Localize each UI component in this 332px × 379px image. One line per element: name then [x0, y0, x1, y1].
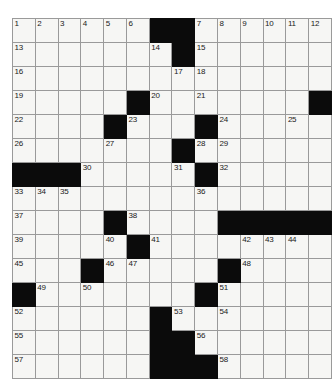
- letter-cell[interactable]: [172, 91, 195, 115]
- letter-cell[interactable]: 57: [13, 355, 36, 379]
- letter-cell[interactable]: [172, 211, 195, 235]
- letter-cell[interactable]: [286, 355, 309, 379]
- letter-cell[interactable]: [81, 307, 104, 331]
- letter-cell[interactable]: [218, 67, 241, 91]
- letter-cell[interactable]: 54: [218, 307, 241, 331]
- letter-cell[interactable]: [240, 307, 263, 331]
- letter-cell[interactable]: 34: [35, 187, 58, 211]
- letter-cell[interactable]: [286, 91, 309, 115]
- letter-cell[interactable]: [240, 283, 263, 307]
- letter-cell[interactable]: 30: [81, 163, 104, 187]
- letter-cell[interactable]: [35, 43, 58, 67]
- letter-cell[interactable]: [309, 67, 332, 91]
- letter-cell[interactable]: [263, 331, 286, 355]
- letter-cell[interactable]: [104, 91, 127, 115]
- letter-cell[interactable]: [263, 115, 286, 139]
- letter-cell[interactable]: [309, 43, 332, 67]
- letter-cell[interactable]: 42: [240, 235, 263, 259]
- letter-cell[interactable]: 4: [81, 19, 104, 43]
- letter-cell[interactable]: 1: [13, 19, 36, 43]
- letter-cell[interactable]: [126, 331, 149, 355]
- letter-cell[interactable]: 35: [58, 187, 81, 211]
- letter-cell[interactable]: 32: [218, 163, 241, 187]
- letter-cell[interactable]: 43: [263, 235, 286, 259]
- letter-cell[interactable]: 13: [13, 43, 36, 67]
- letter-cell[interactable]: 55: [13, 331, 36, 355]
- letter-cell[interactable]: [58, 211, 81, 235]
- letter-cell[interactable]: [126, 307, 149, 331]
- letter-cell[interactable]: [309, 187, 332, 211]
- letter-cell[interactable]: [58, 283, 81, 307]
- letter-cell[interactable]: [263, 283, 286, 307]
- letter-cell[interactable]: [309, 115, 332, 139]
- letter-cell[interactable]: [309, 163, 332, 187]
- letter-cell[interactable]: [263, 67, 286, 91]
- letter-cell[interactable]: 6: [126, 19, 149, 43]
- letter-cell[interactable]: [172, 259, 195, 283]
- letter-cell[interactable]: [58, 139, 81, 163]
- letter-cell[interactable]: [218, 331, 241, 355]
- letter-cell[interactable]: [240, 43, 263, 67]
- letter-cell[interactable]: [218, 91, 241, 115]
- letter-cell[interactable]: [286, 331, 309, 355]
- letter-cell[interactable]: [286, 67, 309, 91]
- letter-cell[interactable]: [126, 355, 149, 379]
- letter-cell[interactable]: 58: [218, 355, 241, 379]
- letter-cell[interactable]: 26: [13, 139, 36, 163]
- letter-cell[interactable]: [35, 115, 58, 139]
- letter-cell[interactable]: 40: [104, 235, 127, 259]
- letter-cell[interactable]: [126, 187, 149, 211]
- letter-cell[interactable]: 31: [172, 163, 195, 187]
- letter-cell[interactable]: [263, 355, 286, 379]
- letter-cell[interactable]: 20: [149, 91, 172, 115]
- letter-cell[interactable]: [58, 91, 81, 115]
- letter-cell[interactable]: 39: [13, 235, 36, 259]
- letter-cell[interactable]: [81, 43, 104, 67]
- letter-cell[interactable]: 2: [35, 19, 58, 43]
- letter-cell[interactable]: [35, 139, 58, 163]
- letter-cell[interactable]: [149, 283, 172, 307]
- letter-cell[interactable]: [104, 307, 127, 331]
- crossword-grid-container[interactable]: 1234567891011121314151617181920212223242…: [12, 18, 332, 379]
- letter-cell[interactable]: [104, 283, 127, 307]
- letter-cell[interactable]: [240, 67, 263, 91]
- letter-cell[interactable]: 33: [13, 187, 36, 211]
- letter-cell[interactable]: [240, 163, 263, 187]
- letter-cell[interactable]: 47: [126, 259, 149, 283]
- letter-cell[interactable]: 9: [240, 19, 263, 43]
- letter-cell[interactable]: [195, 307, 218, 331]
- letter-cell[interactable]: [81, 187, 104, 211]
- letter-cell[interactable]: [81, 67, 104, 91]
- letter-cell[interactable]: [309, 259, 332, 283]
- letter-cell[interactable]: 28: [195, 139, 218, 163]
- letter-cell[interactable]: [126, 283, 149, 307]
- letter-cell[interactable]: [172, 235, 195, 259]
- letter-cell[interactable]: 11: [286, 19, 309, 43]
- letter-cell[interactable]: 53: [172, 307, 195, 331]
- letter-cell[interactable]: [35, 307, 58, 331]
- letter-cell[interactable]: [218, 43, 241, 67]
- letter-cell[interactable]: [263, 91, 286, 115]
- letter-cell[interactable]: [309, 235, 332, 259]
- letter-cell[interactable]: [58, 43, 81, 67]
- letter-cell[interactable]: [149, 259, 172, 283]
- letter-cell[interactable]: 36: [195, 187, 218, 211]
- letter-cell[interactable]: [104, 43, 127, 67]
- letter-cell[interactable]: [81, 139, 104, 163]
- letter-cell[interactable]: 15: [195, 43, 218, 67]
- letter-cell[interactable]: [286, 307, 309, 331]
- letter-cell[interactable]: 37: [13, 211, 36, 235]
- letter-cell[interactable]: 7: [195, 19, 218, 43]
- letter-cell[interactable]: [240, 331, 263, 355]
- letter-cell[interactable]: [58, 115, 81, 139]
- crossword-grid[interactable]: 1234567891011121314151617181920212223242…: [12, 18, 332, 379]
- letter-cell[interactable]: [263, 259, 286, 283]
- letter-cell[interactable]: 17: [172, 67, 195, 91]
- letter-cell[interactable]: 56: [195, 331, 218, 355]
- letter-cell[interactable]: [286, 187, 309, 211]
- letter-cell[interactable]: [149, 115, 172, 139]
- letter-cell[interactable]: 3: [58, 19, 81, 43]
- letter-cell[interactable]: 25: [286, 115, 309, 139]
- letter-cell[interactable]: [81, 91, 104, 115]
- letter-cell[interactable]: 49: [35, 283, 58, 307]
